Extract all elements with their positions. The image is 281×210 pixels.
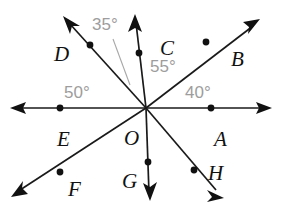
geometry-diagram: A B C D E F G H O 35° 55° 50° 40°	[0, 0, 281, 210]
ray-OG-line	[146, 108, 149, 193]
point-label-G: G	[122, 169, 137, 193]
point-label-D: D	[53, 42, 69, 66]
ray-OH-line	[146, 108, 216, 190]
angle-label-50: 50°	[64, 83, 90, 102]
arrowhead-F-icon	[11, 181, 28, 197]
angle-35-leader-line	[113, 39, 130, 85]
point-dot-A	[208, 105, 215, 112]
point-label-B: B	[231, 47, 244, 71]
point-dot-C	[136, 50, 143, 57]
arrowhead-C-icon	[128, 14, 142, 32]
point-dot-group	[57, 39, 215, 176]
point-label-E: E	[56, 127, 70, 151]
point-dot-H	[191, 167, 198, 174]
angle-label-55: 55°	[150, 57, 176, 76]
angle-label-35: 35°	[92, 15, 118, 34]
point-dot-G	[145, 159, 152, 166]
geometry-canvas: A B C D E F G H O 35° 55° 50° 40°	[0, 0, 281, 210]
point-label-H: H	[207, 161, 225, 185]
point-dot-D	[87, 42, 94, 49]
point-dot-F	[57, 169, 64, 176]
point-label-A: A	[212, 127, 227, 151]
arrowhead-G-icon	[143, 182, 157, 201]
point-dot-B	[203, 39, 210, 46]
point-label-F: F	[67, 177, 81, 201]
arrowhead-H-icon	[207, 190, 224, 202]
vertex-label-O: O	[124, 126, 139, 150]
ray-OC-line	[136, 23, 146, 108]
point-dot-E	[57, 105, 64, 112]
angle-label-40: 40°	[185, 83, 211, 102]
